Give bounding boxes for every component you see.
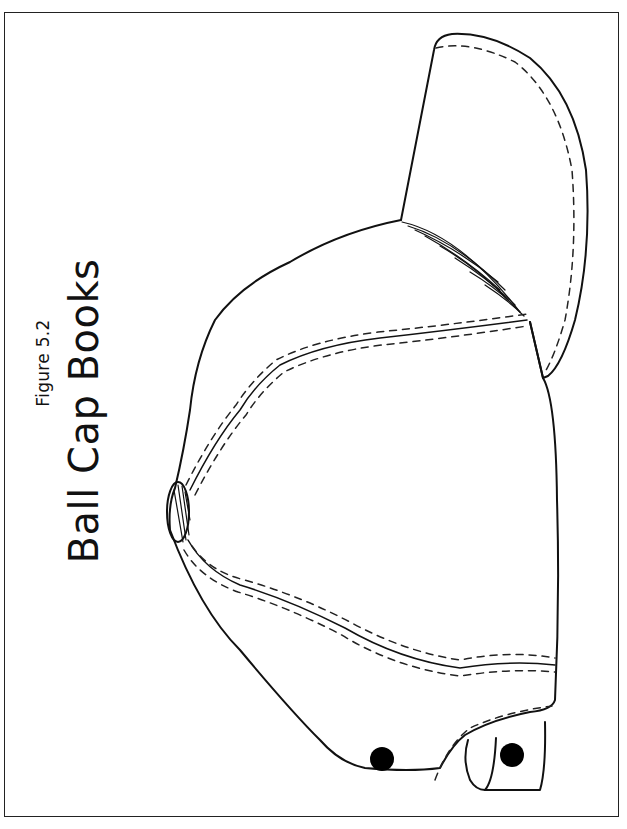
cap-crown xyxy=(170,220,559,770)
upper-seam xyxy=(186,314,527,495)
eyelet-dot xyxy=(370,747,394,771)
snapback-strap xyxy=(465,722,545,790)
ball-cap-drawing xyxy=(0,0,627,829)
brim-shadow-hatching xyxy=(402,222,524,316)
snapback-dot xyxy=(500,743,524,767)
lower-seam xyxy=(184,540,555,676)
